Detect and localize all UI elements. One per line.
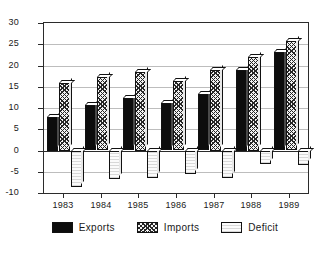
bar-imports-1985 <box>135 72 146 151</box>
legend-item-exports: Exports <box>52 222 115 233</box>
bar-side-face <box>107 72 110 146</box>
bar-exports-1984 <box>85 105 96 150</box>
legend-swatch-exports-icon <box>52 222 73 233</box>
bar-deficit-1985 <box>147 151 158 178</box>
bar-exports-1986 <box>161 103 172 151</box>
y-axis-tick-label: 0 <box>0 146 19 155</box>
bar-deficit-1987 <box>222 151 233 178</box>
bar-side-face <box>258 52 261 147</box>
bar-side-face <box>220 65 223 147</box>
x-axis-tick-mark <box>289 194 290 198</box>
x-axis-tick-mark <box>138 194 139 198</box>
x-axis-tick-mark <box>251 194 252 198</box>
legend-label: Imports <box>164 222 199 233</box>
bar-exports-1985 <box>123 98 134 150</box>
bar-top-face <box>298 148 314 151</box>
bar-top-face <box>210 67 226 70</box>
bar-imports-1986 <box>173 81 184 151</box>
bar-top-face <box>286 38 302 41</box>
bar-deficit-1983 <box>71 151 82 188</box>
gridline <box>44 44 308 45</box>
y-axis-tick-label: 20 <box>0 61 19 70</box>
y-axis-tick-label: 25 <box>0 39 19 48</box>
x-axis-tick-mark <box>63 194 64 198</box>
bar-imports-1983 <box>59 83 70 151</box>
y-axis-tick-label: -5 <box>0 167 19 176</box>
bar-side-face <box>81 146 84 184</box>
bar-side-face <box>183 76 186 147</box>
bar-deficit-1986 <box>185 151 196 175</box>
bar-side-face <box>69 78 72 147</box>
bar-deficit-1988 <box>260 151 271 165</box>
gridline <box>44 66 308 67</box>
x-axis-tick-mark <box>214 194 215 198</box>
x-axis-tick-mark <box>176 194 177 198</box>
y-axis-tick-label: 10 <box>0 103 19 112</box>
y-axis-tick-label: -10 <box>0 188 19 197</box>
bar-side-face <box>145 67 148 147</box>
bar-top-face <box>173 78 189 81</box>
bar-chart: -10-5051015202530 1983198419851986198719… <box>0 0 330 253</box>
bar-imports-1987 <box>210 70 221 151</box>
legend-label: Exports <box>79 222 115 233</box>
bar-imports-1989 <box>286 41 297 150</box>
bar-top-face <box>59 80 75 83</box>
bar-deficit-1989 <box>298 151 309 165</box>
bar-exports-1983 <box>47 117 58 151</box>
chart-legend: ExportsImportsDeficit <box>0 222 330 233</box>
bar-top-face <box>97 74 113 77</box>
bar-imports-1984 <box>97 77 108 150</box>
legend-swatch-imports-icon <box>137 222 158 233</box>
x-axis-tick-mark <box>101 194 102 198</box>
legend-item-deficit: Deficit <box>221 222 278 233</box>
bar-exports-1988 <box>236 70 247 151</box>
bar-exports-1989 <box>274 52 285 151</box>
legend-item-imports: Imports <box>137 222 199 233</box>
bar-top-face <box>248 54 264 57</box>
y-axis-tick-label: 30 <box>0 18 19 27</box>
plot-area <box>43 22 309 194</box>
legend-label: Deficit <box>248 222 278 233</box>
bar-exports-1987 <box>198 94 209 150</box>
y-axis-tick-label: 5 <box>0 124 19 133</box>
bar-imports-1988 <box>248 57 259 151</box>
x-axis-tick-label: 1989 <box>267 200 311 210</box>
bar-top-face <box>135 69 151 72</box>
bar-deficit-1984 <box>109 151 120 180</box>
bar-side-face <box>296 36 299 146</box>
y-axis-tick-label: 15 <box>0 82 19 91</box>
legend-swatch-deficit-icon <box>221 222 242 233</box>
